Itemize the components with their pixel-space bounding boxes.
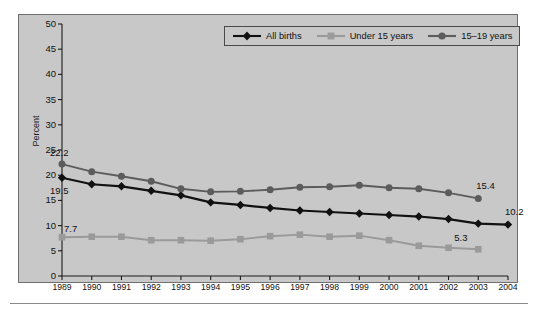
data-label: 10.2 (505, 206, 524, 217)
x-tick-label: 1991 (105, 282, 137, 292)
x-tick-label: 1993 (165, 282, 197, 292)
y-tick-label: 45 (16, 43, 56, 54)
data-label: 5.3 (454, 232, 467, 243)
x-tick-label: 1999 (343, 282, 375, 292)
y-tick-label: 0 (16, 270, 56, 281)
chart-plot (0, 0, 538, 317)
legend-marker-circle-icon (427, 30, 457, 42)
data-series (58, 161, 512, 253)
x-tick-label: 1992 (135, 282, 167, 292)
axes (58, 24, 508, 280)
x-tick-label: 1990 (76, 282, 108, 292)
x-tick-label: 1994 (195, 282, 227, 292)
data-label: 15.4 (476, 180, 495, 191)
x-tick-label: 1997 (284, 282, 316, 292)
figure: Percent 05101520253035404550 19891990199… (0, 0, 538, 317)
y-tick-label: 35 (16, 94, 56, 105)
data-label: 19.5 (50, 185, 69, 196)
y-tick-label: 15 (16, 194, 56, 205)
legend-label-under-15-years: Under 15 years (350, 31, 414, 41)
x-tick-label: 2002 (433, 282, 465, 292)
x-tick-label: 2001 (403, 282, 435, 292)
x-tick-label: 1989 (46, 282, 78, 292)
legend-marker-square-icon (316, 30, 346, 42)
legend-marker-diamond-icon (232, 30, 262, 42)
y-tick-label: 40 (16, 68, 56, 79)
legend-label-all-births: All births (266, 31, 302, 41)
legend-item-under-15-years: Under 15 years (316, 30, 414, 42)
data-label: 7.7 (64, 223, 77, 234)
x-tick-label: 1998 (314, 282, 346, 292)
x-tick-label: 1995 (224, 282, 256, 292)
x-tick-label: 1996 (254, 282, 286, 292)
y-tick-label: 50 (16, 18, 56, 29)
x-tick-label: 2003 (462, 282, 494, 292)
y-tick-label: 30 (16, 119, 56, 130)
chart-legend: All births Under 15 years 15–19 years (224, 26, 520, 46)
x-tick-label: 2000 (373, 282, 405, 292)
data-label: 22.2 (50, 147, 69, 158)
x-tick-label: 2004 (492, 282, 524, 292)
y-tick-label: 20 (16, 169, 56, 180)
legend-label-15-19-years: 15–19 years (461, 31, 512, 41)
legend-item-all-births: All births (232, 30, 302, 42)
y-tick-label: 10 (16, 220, 56, 231)
y-tick-label: 5 (16, 245, 56, 256)
legend-item-15-19-years: 15–19 years (427, 30, 512, 42)
footer-divider (10, 303, 528, 304)
